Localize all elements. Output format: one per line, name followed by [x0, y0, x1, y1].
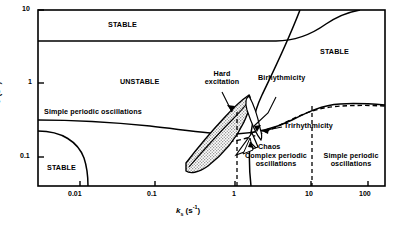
xtick-10: 10: [305, 190, 313, 197]
region-label-unstable: UNSTABLE: [120, 78, 159, 86]
phase-diagram-figure: STABLE UNSTABLE Simple periodic oscillat…: [0, 0, 404, 229]
xtick-100: 100: [359, 190, 371, 197]
xtick-0-1: 0.1: [147, 190, 157, 197]
simple-periodic-right-line2: oscillations: [331, 159, 372, 168]
y-axis-symbol: v: [0, 99, 2, 103]
y-axis-unit-open: (s: [0, 89, 2, 98]
x-axis-unit-close: ): [198, 206, 201, 215]
region-label-simple-left: Simple periodic oscillations: [44, 108, 142, 116]
ytick-10: 10: [22, 5, 30, 12]
y-axis-title: v (s-1): [0, 82, 2, 103]
y-axis-unit-close: ): [0, 82, 2, 85]
ytick-1: 1: [28, 78, 32, 85]
ytick-0-1: 0.1: [20, 152, 30, 159]
region-label-stable-top: STABLE: [108, 21, 137, 29]
region-label-complex-periodic: Complex periodic oscillations: [240, 152, 312, 168]
callout-birhythmicity: Birhythmicity: [258, 74, 305, 82]
region-label-stable-lower-left: STABLE: [47, 164, 76, 172]
callout-chaos: Chaos: [258, 143, 280, 151]
xtick-1: 1: [232, 190, 236, 197]
hard-excitation-line2: excitation: [205, 77, 240, 86]
x-axis-unit-open: (s: [183, 206, 192, 215]
region-label-simple-periodic-right: Simple periodic oscillations: [316, 152, 386, 168]
xtick-0-01: 0.01: [68, 190, 82, 197]
callout-hard-excitation: Hard excitation: [196, 70, 248, 86]
x-axis-title: ks (s-1): [176, 206, 200, 215]
stable-unstable-upper-boundary: [38, 10, 360, 41]
callout-trirhythmicity: Trirhythmicity: [284, 122, 333, 130]
region-label-stable-right: STABLE: [320, 48, 349, 56]
complex-periodic-line2: oscillations: [256, 159, 297, 168]
lower-left-stable-boundary: [38, 131, 88, 186]
arrow-trirhythmicity: [262, 128, 269, 134]
